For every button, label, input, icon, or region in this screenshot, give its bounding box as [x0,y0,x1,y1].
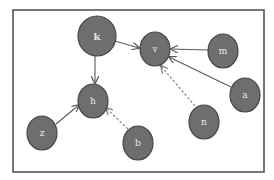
node-m[interactable]: m [208,34,238,68]
node-k-label: k [94,31,102,42]
node-a-label: a [242,90,248,100]
graph-diagram: k v m a h n z b [0,0,274,180]
node-a[interactable]: a [230,78,260,112]
node-b[interactable]: b [123,126,153,160]
node-m-label: m [219,46,228,56]
node-n[interactable]: n [189,105,219,139]
node-z-label: z [40,128,45,138]
node-k[interactable]: k [78,16,116,56]
node-z[interactable]: z [27,116,57,150]
node-v[interactable]: v [140,32,170,66]
node-v-label: v [151,44,158,54]
node-h-label: h [90,96,96,106]
node-b-label: b [135,138,141,148]
node-h[interactable]: h [78,84,108,118]
node-n-label: n [201,117,207,127]
